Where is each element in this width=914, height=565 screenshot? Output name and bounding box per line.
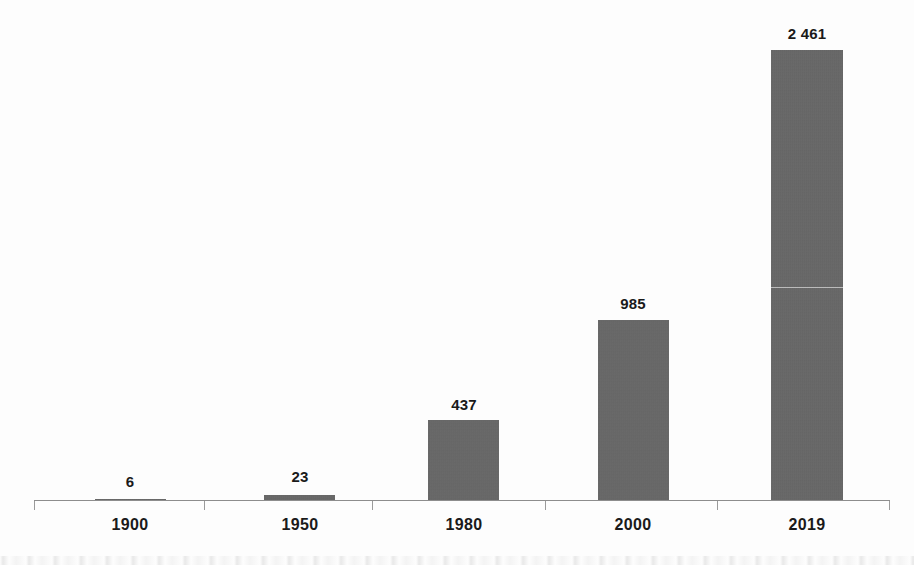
value-label-1950: 23 (250, 468, 350, 485)
x-tick-label-1950: 1950 (250, 516, 350, 534)
value-label-1980: 437 (414, 396, 514, 413)
x-tick-label-2019: 2019 (757, 516, 857, 534)
axis-tick-3 (545, 501, 546, 510)
value-label-2019: 2 461 (757, 25, 857, 42)
axis-tick-end (889, 501, 890, 510)
bar-chart: 6 23 437 985 2 461 1900 1950 1980 2000 2… (0, 0, 914, 565)
axis-tick-start (34, 501, 35, 510)
axis-tick-4 (717, 501, 718, 510)
axis-tick-1 (204, 501, 205, 510)
x-tick-label-1980: 1980 (414, 516, 514, 534)
value-label-1900: 6 (80, 473, 180, 490)
x-tick-label-2000: 2000 (583, 516, 683, 534)
value-label-2000: 985 (583, 295, 683, 312)
plot-area: 6 23 437 985 2 461 1900 1950 1980 2000 2… (0, 0, 914, 565)
bar-2019 (771, 50, 843, 500)
bar-1980 (428, 420, 499, 500)
axis-tick-2 (372, 501, 373, 510)
bar-2000 (598, 320, 669, 500)
x-tick-label-1900: 1900 (80, 516, 180, 534)
x-axis-line (34, 500, 890, 501)
